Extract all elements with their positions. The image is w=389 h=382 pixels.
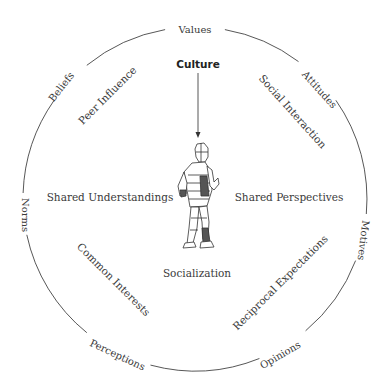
ring-arc-segment bbox=[23, 100, 54, 193]
culture-diagram: Values Attitudes Motives Opinions Percep… bbox=[0, 0, 389, 382]
arrow-head-icon bbox=[196, 132, 201, 138]
ring-label-norms: Norms bbox=[20, 198, 31, 232]
ring-arc-segment bbox=[306, 261, 356, 331]
label-peer-influence: Peer Influence bbox=[76, 64, 139, 127]
ring-label-attitudes: Attitudes bbox=[299, 68, 339, 110]
label-shared-understandings: Shared Understandings bbox=[47, 191, 174, 203]
ring-label-perceptions: Perceptions bbox=[88, 337, 147, 372]
ring-arc-segment bbox=[151, 359, 260, 371]
ring-label-motives: Motives bbox=[356, 220, 372, 261]
ring-label-opinions: Opinions bbox=[258, 339, 302, 371]
ring-arc-segment bbox=[225, 30, 299, 62]
ring-arc-segment bbox=[87, 30, 165, 66]
ring-label-beliefs: Beliefs bbox=[46, 70, 76, 104]
label-socialization: Socialization bbox=[163, 267, 231, 279]
culture-label: Culture bbox=[176, 58, 220, 70]
label-shared-perspectives: Shared Perspectives bbox=[235, 191, 344, 203]
label-common-interests: Common Interests bbox=[75, 240, 153, 318]
walking-person-figure bbox=[178, 143, 219, 248]
ring-label-values: Values bbox=[178, 24, 212, 35]
label-reciprocal-expectations: Reciprocal Expectations bbox=[230, 232, 330, 332]
